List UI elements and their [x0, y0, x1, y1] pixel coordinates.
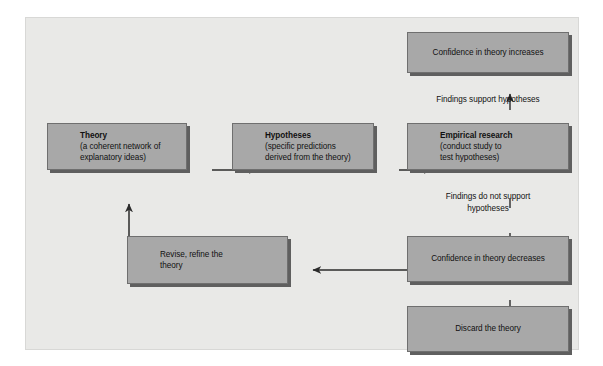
box-theory[interactable]: Theory (a coherent network of explanator… — [47, 123, 187, 170]
box-hypotheses-line2: (specific predictions — [265, 141, 367, 152]
box-revise-theory[interactable]: Revise, refine the theory — [127, 236, 288, 284]
label-findings-not-support: Findings do not support hypotheses — [407, 191, 569, 214]
label-findings-not-support-line1: Findings do not support — [407, 191, 569, 203]
label-findings-support-text: Findings support hypotheses — [436, 95, 539, 104]
box-discard-theory-text: Discard the theory — [414, 323, 562, 334]
box-theory-line2: (a coherent network of — [80, 141, 180, 152]
label-findings-not-support-line2: hypotheses — [407, 203, 569, 215]
box-empirical-research-line3: test hypotheses) — [440, 152, 562, 163]
box-confidence-increases[interactable]: Confidence in theory increases — [407, 32, 569, 73]
box-empirical-research-line2: (conduct study to — [440, 141, 562, 152]
label-findings-support: Findings support hypotheses — [407, 94, 569, 106]
box-empirical-research-title: Empirical research — [440, 130, 562, 141]
box-theory-title: Theory — [80, 130, 180, 141]
diagram-panel: Theory (a coherent network of explanator… — [25, 17, 579, 350]
box-confidence-decreases[interactable]: Confidence in theory decreases — [407, 236, 569, 282]
box-hypotheses-line3: derived from the theory) — [265, 152, 367, 163]
box-theory-line3: explanatory ideas) — [80, 152, 180, 163]
box-hypotheses[interactable]: Hypotheses (specific predictions derived… — [232, 123, 374, 170]
diagram-canvas: Theory (a coherent network of explanator… — [0, 0, 603, 366]
box-discard-theory[interactable]: Discard the theory — [407, 306, 569, 352]
box-confidence-decreases-text: Confidence in theory decreases — [414, 253, 562, 264]
box-revise-theory-line2: theory — [160, 260, 281, 271]
box-confidence-increases-text: Confidence in theory increases — [414, 47, 562, 58]
box-empirical-research[interactable]: Empirical research (conduct study to tes… — [407, 123, 569, 170]
box-revise-theory-line1: Revise, refine the — [160, 249, 281, 260]
box-hypotheses-title: Hypotheses — [265, 130, 367, 141]
